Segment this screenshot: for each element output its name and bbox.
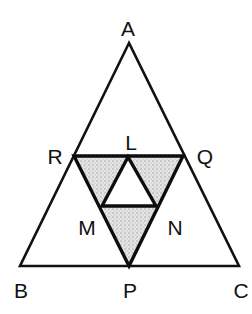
label-b: B [14,279,28,302]
label-p: P [123,279,137,302]
shaded-triangle-rlm [74,156,128,206]
shaded-triangle-mnp [102,206,156,266]
label-m: M [78,216,96,239]
label-r: R [47,145,62,168]
label-n: N [167,216,182,239]
label-q: Q [197,145,213,168]
label-c: C [233,279,248,302]
triangle-diagram: A R L Q M N B P C [0,0,252,314]
shaded-triangle-lqn [128,156,183,206]
label-a: A [121,17,135,40]
label-l: L [125,131,137,154]
